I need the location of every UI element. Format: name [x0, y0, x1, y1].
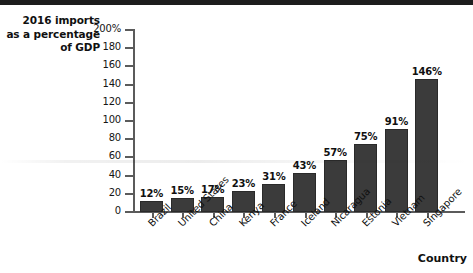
- bar-value-label: 75%: [343, 131, 389, 142]
- y-axis-tick-label: 80: [81, 132, 121, 143]
- y-axis-tick: [125, 29, 133, 31]
- y-axis-tick: [125, 120, 133, 122]
- y-axis-tick-label: 100: [81, 114, 121, 125]
- bar-value-label: 57%: [312, 147, 358, 158]
- x-axis-title: Country: [418, 252, 467, 265]
- y-axis-tick: [125, 175, 133, 177]
- y-axis-tick-label: 180: [81, 41, 121, 52]
- bar-value-label: 91%: [373, 116, 419, 127]
- scan-fold-artifact: [0, 160, 473, 163]
- bar-value-label: 31%: [251, 171, 297, 182]
- y-axis-tick: [125, 47, 133, 49]
- y-axis-tick: [125, 156, 133, 158]
- y-axis-tick-label: 20: [81, 187, 121, 198]
- y-axis-tick-label: 160: [81, 59, 121, 70]
- y-axis-tick: [125, 84, 133, 86]
- bar-value-label: 146%: [404, 66, 450, 77]
- y-axis-tick: [125, 102, 133, 104]
- y-axis-tick: [125, 65, 133, 67]
- y-axis-tick: [125, 211, 133, 213]
- y-axis-tick-label: 200%: [81, 23, 121, 34]
- y-axis-tick: [125, 138, 133, 140]
- y-axis-tick-label: 120: [81, 96, 121, 107]
- y-axis-tick-label: 0: [81, 205, 121, 216]
- y-axis-tick-label: 140: [81, 78, 121, 89]
- y-axis-tick-label: 40: [81, 169, 121, 180]
- bar-chart: 2016 imports as a percentage of GDP 0204…: [0, 0, 473, 273]
- y-axis-line: [133, 29, 135, 213]
